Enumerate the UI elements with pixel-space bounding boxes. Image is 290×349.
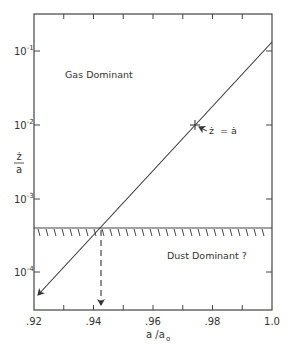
svg-text:10-2: 10-2 — [14, 118, 34, 131]
svg-text:10-1: 10-1 — [14, 44, 34, 57]
x-tick-labels: .92 .94 .96 .98 1.0 — [26, 316, 280, 327]
chart-canvas: .92 .94 .96 .98 1.0 a /a o 10-1 10-2 10-… — [0, 0, 290, 349]
gas-dominant-label: Gas Dominant — [65, 69, 133, 80]
svg-text:a: a — [16, 164, 22, 175]
y-axis-label: ż a — [14, 151, 24, 175]
marker-pointer-arrow — [199, 127, 207, 131]
svg-text:ż: ż — [16, 151, 21, 162]
svg-text:.96: .96 — [145, 316, 161, 327]
x-axis-label: a /a o — [146, 329, 170, 343]
svg-text:1.0: 1.0 — [264, 316, 280, 327]
dust-threshold-hatched-line — [34, 228, 272, 236]
x-axis-ticks — [64, 14, 243, 310]
svg-text:=: = — [220, 125, 228, 136]
svg-text:10-3: 10-3 — [14, 192, 34, 205]
svg-text:10-4: 10-4 — [14, 265, 34, 278]
svg-text:.94: .94 — [86, 316, 102, 327]
y-axis-ticks — [34, 51, 272, 272]
svg-text:ż: ż — [209, 125, 214, 136]
plot-frame — [34, 14, 272, 310]
svg-text:a /a: a /a — [146, 329, 165, 340]
svg-text:o: o — [166, 335, 170, 343]
svg-text:.92: .92 — [26, 316, 42, 327]
dust-dominant-label: Dust Dominant ? — [167, 250, 247, 261]
svg-text:.98: .98 — [205, 316, 221, 327]
marker-label: ż = ȧ — [209, 125, 237, 136]
svg-text:ȧ: ȧ — [231, 125, 237, 136]
